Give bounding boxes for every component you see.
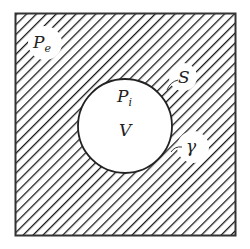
- volume-label: V: [119, 120, 133, 140]
- surface-label: S: [178, 67, 190, 87]
- gamma-label: γ: [186, 136, 197, 156]
- bubble-diagram: Pe Pi V S γ: [0, 0, 250, 249]
